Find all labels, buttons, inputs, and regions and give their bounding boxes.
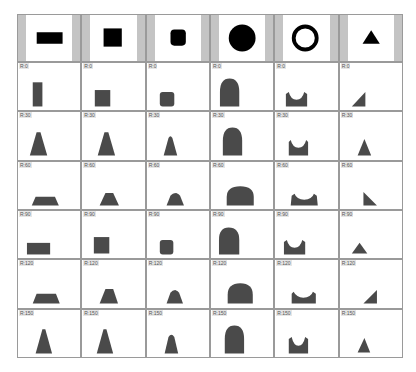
header-cell-ring [274,14,338,62]
ring-silhouette-icon [275,162,337,209]
header-cell-triangle [339,14,403,62]
circle-silhouette-icon [211,112,273,159]
square-silhouette-icon [82,112,144,159]
row-r60: R:60 R:60 R:60 R:60 R:60 R:60 [17,161,403,210]
ring-silhouette-icon [275,310,337,357]
square-silhouette-icon [82,162,144,209]
rectangle-silhouette-icon [18,112,80,159]
square-silhouette-icon [82,63,144,110]
shape-rotation-grid: R:0 R:0 R:0 R:0 R:0 R:0 R:30 R:30 R:30 R… [17,14,403,358]
circle-silhouette-icon [211,310,273,357]
cell: R:150 [274,309,338,358]
circle-icon [211,15,273,61]
row-r0: R:0 R:0 R:0 R:0 R:0 R:0 [17,62,403,111]
ring-silhouette-icon [275,211,337,258]
rounded-square-silhouette-icon [147,211,209,258]
cell: R:60 [210,161,274,210]
cell: R:60 [146,161,210,210]
rounded-square-silhouette-icon [147,162,209,209]
ring-silhouette-icon [275,63,337,110]
cell: R:150 [339,309,403,358]
triangle-silhouette-icon [340,112,402,159]
cell: R:120 [17,259,81,308]
rounded-square-silhouette-icon [147,63,209,110]
cell: R:0 [146,62,210,111]
rectangle-silhouette-icon [18,63,80,110]
cell: R:120 [146,259,210,308]
cell: R:0 [17,62,81,111]
rounded-square-silhouette-icon [147,310,209,357]
circle-silhouette-icon [211,211,273,258]
cell: R:0 [210,62,274,111]
square-silhouette-icon [82,211,144,258]
ring-icon [275,15,337,61]
cell: R:30 [146,111,210,160]
row-r120: R:120 R:120 R:120 R:120 R:120 R:120 [17,259,403,308]
row-r90: R:90 R:90 R:90 R:90 R:90 R:90 [17,210,403,259]
cell: R:30 [81,111,145,160]
cell: R:120 [274,259,338,308]
cell: R:90 [146,210,210,259]
row-r30: R:30 R:30 R:30 R:30 R:30 R:30 [17,111,403,160]
triangle-silhouette-icon [340,211,402,258]
rounded-square-silhouette-icon [147,260,209,307]
rectangle-silhouette-icon [18,211,80,258]
row-r150: R:150 R:150 R:150 R:150 R:150 R:150 [17,309,403,358]
cell: R:0 [274,62,338,111]
rectangle-silhouette-icon [18,260,80,307]
cell: R:30 [17,111,81,160]
triangle-silhouette-icon [340,260,402,307]
rectangle-silhouette-icon [18,162,80,209]
rounded-square-silhouette-icon [147,112,209,159]
rectangle-icon [18,15,80,61]
triangle-icon [340,15,402,61]
cell: R:60 [274,161,338,210]
cell: R:30 [274,111,338,160]
ring-silhouette-icon [275,112,337,159]
triangle-silhouette-icon [340,310,402,357]
header-cell-rectangle [17,14,81,62]
circle-silhouette-icon [211,260,273,307]
header-cell-circle [210,14,274,62]
cell: R:150 [146,309,210,358]
cell: R:150 [210,309,274,358]
rounded-square-icon [147,15,209,61]
cell: R:150 [17,309,81,358]
triangle-silhouette-icon [340,162,402,209]
cell: R:120 [210,259,274,308]
header-cell-square [81,14,145,62]
cell: R:30 [339,111,403,160]
cell: R:90 [81,210,145,259]
cell: R:90 [17,210,81,259]
cell: R:60 [17,161,81,210]
cell: R:90 [210,210,274,259]
cell: R:60 [81,161,145,210]
header-row [17,14,403,62]
square-icon [82,15,144,61]
circle-silhouette-icon [211,63,273,110]
cell: R:0 [339,62,403,111]
triangle-silhouette-icon [340,63,402,110]
header-cell-rounded-square [146,14,210,62]
rectangle-silhouette-icon [18,310,80,357]
circle-silhouette-icon [211,162,273,209]
square-silhouette-icon [82,310,144,357]
square-silhouette-icon [82,260,144,307]
cell: R:0 [81,62,145,111]
cell: R:120 [81,259,145,308]
cell: R:60 [339,161,403,210]
cell: R:30 [210,111,274,160]
cell: R:90 [274,210,338,259]
ring-silhouette-icon [275,260,337,307]
cell: R:120 [339,259,403,308]
cell: R:150 [81,309,145,358]
cell: R:90 [339,210,403,259]
